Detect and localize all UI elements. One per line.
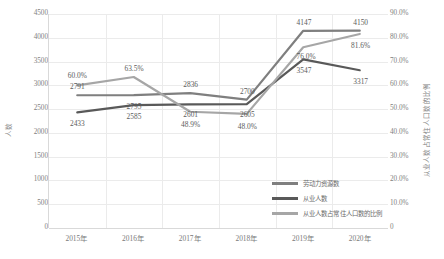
data-label: 2700 [240, 86, 255, 95]
data-label: 48.0% [238, 121, 257, 130]
y-axis-right-tick: 20.0% [390, 177, 409, 184]
y-axis-left-title: 人数 [3, 122, 13, 137]
y-axis-right-tick: 30.0% [390, 153, 409, 160]
legend-swatch-icon [272, 182, 298, 185]
legend-item-label: 从业人数占常住人口数的比例 [303, 209, 382, 218]
y-axis-right-tick: 70.0% [390, 58, 409, 65]
x-axis-tick: 2016年 [122, 232, 144, 243]
y-axis-left-tick: 4000 [34, 34, 48, 41]
x-axis-tick: 2015年 [65, 232, 87, 243]
data-label: 2585 [127, 112, 142, 121]
y-axis-left-tick: 2500 [34, 106, 48, 113]
y-axis-right-tick: 0 [390, 224, 394, 231]
data-label: 2795 [127, 102, 142, 111]
legend-item-label: 劳动力资源数 [303, 179, 340, 188]
y-axis-left-tick: 3500 [34, 58, 48, 65]
legend-swatch-icon [272, 212, 298, 215]
chart-legend: 劳动力资源数从业人数从业人数占常住人口数的比例 [272, 176, 390, 221]
chart-container: 人数 从业人数占常住人口数的比例 05001000150020002500300… [0, 0, 444, 259]
x-axis-tick: 2018年 [235, 232, 257, 243]
legend-item[interactable]: 劳动力资源数 [272, 176, 390, 191]
data-label: 63.5% [124, 64, 143, 73]
y-axis-right-tick: 40.0% [390, 129, 409, 136]
data-label: 2433 [70, 119, 85, 128]
y-axis-right-tick: 90.0% [390, 10, 409, 17]
data-label: 76.0% [296, 52, 315, 61]
data-label: 48.9% [181, 119, 200, 128]
data-label: 2836 [183, 80, 198, 89]
data-label: 3547 [297, 66, 312, 75]
y-axis-left-tick: 1500 [34, 153, 48, 160]
x-axis-tick: 2020年 [349, 232, 371, 243]
y-axis-left-tick: 500 [37, 201, 48, 208]
data-label: 3317 [353, 77, 368, 86]
data-label: 2605 [240, 110, 255, 119]
data-label: 2601 [183, 110, 198, 119]
legend-item[interactable]: 从业人数 [272, 191, 390, 206]
y-axis-left-tick: 2000 [34, 129, 48, 136]
y-axis-right-tick: 10.0% [390, 201, 409, 208]
data-label: 81.6% [351, 40, 370, 49]
x-axis-tick: 2017年 [179, 232, 201, 243]
y-axis-right-tick: 60.0% [390, 82, 409, 89]
y-axis-right-tick: 80.0% [390, 34, 409, 41]
y-axis-right-tick: 50.0% [390, 106, 409, 113]
data-label: 4147 [297, 17, 312, 26]
legend-item-label: 从业人数 [303, 194, 327, 203]
data-label: 2791 [70, 82, 85, 91]
y-axis-left-tick: 1000 [34, 177, 48, 184]
y-axis-left-tick: 4500 [34, 10, 48, 17]
y-axis-right-ticks: 010.0%20.0%30.0%40.0%50.0%60.0%70.0%80.0… [390, 14, 424, 228]
data-label: 4150 [353, 17, 368, 26]
y-axis-left-ticks: 050010001500200025003000350040004500 [14, 14, 48, 228]
legend-swatch-icon [272, 197, 298, 200]
x-axis-ticks: 2015年2016年2017年2018年2019年2020年 [48, 232, 388, 248]
y-axis-left-tick: 3000 [34, 82, 48, 89]
horizontal-gridline [49, 228, 388, 229]
x-axis-tick: 2019年 [292, 232, 314, 243]
data-label: 60.0% [68, 71, 87, 80]
legend-item[interactable]: 从业人数占常住人口数的比例 [272, 206, 390, 221]
